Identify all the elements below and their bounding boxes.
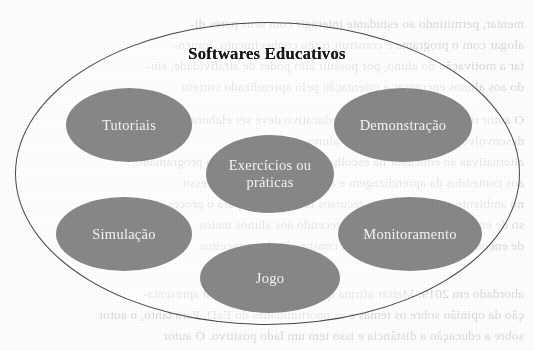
diagram-title: Softwares Educativos bbox=[0, 44, 534, 64]
scanned-page: mentar, permitindo ao estudante interagi… bbox=[0, 0, 534, 351]
node-label-simulacao: Simulação bbox=[86, 226, 161, 243]
node-label-jogo: Jogo bbox=[250, 270, 290, 287]
node-label-demonstracao: Demonstração bbox=[354, 117, 453, 134]
node-simulacao: Simulação bbox=[56, 197, 192, 271]
node-jogo: Jogo bbox=[200, 243, 340, 313]
node-monitoramento: Monitoramento bbox=[338, 197, 482, 271]
node-exercicios: Exercícios ou práticas bbox=[206, 135, 334, 213]
node-label-tutoriais: Tutoriais bbox=[96, 117, 162, 134]
bleedthrough-line: sobre a educação a distância e isso tem … bbox=[163, 328, 524, 344]
node-label-monitoramento: Monitoramento bbox=[357, 226, 462, 243]
node-label-exercicios: Exercícios ou práticas bbox=[223, 157, 318, 191]
node-tutoriais: Tutoriais bbox=[66, 88, 192, 162]
node-demonstracao: Demonstração bbox=[334, 88, 472, 162]
